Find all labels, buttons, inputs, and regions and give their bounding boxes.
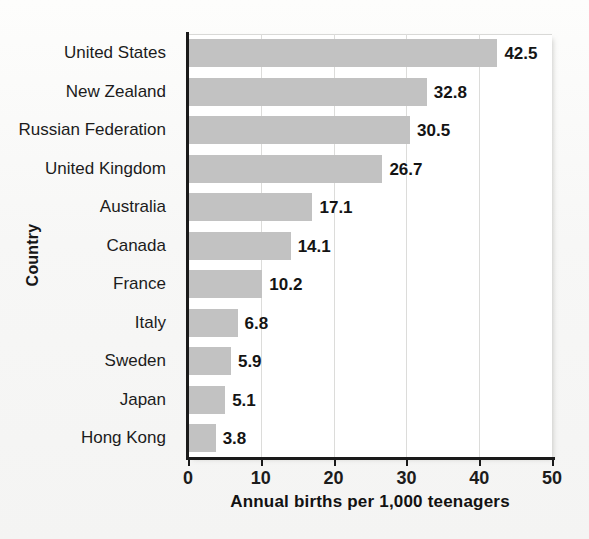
- x-tick-30: [406, 458, 408, 466]
- x-tick-label-40: 40: [456, 468, 502, 489]
- bar-value-label: 32.8: [434, 79, 467, 106]
- x-tick-label-20: 20: [311, 468, 357, 489]
- bar-row: 42.5: [188, 34, 552, 72]
- bar-value-label: 30.5: [417, 117, 450, 144]
- bar-row: 3.8: [188, 419, 552, 457]
- bar-value-label: 17.1: [319, 194, 352, 221]
- x-tick-label-10: 10: [238, 468, 284, 489]
- bar-row: 5.1: [188, 381, 552, 419]
- bar: [188, 155, 382, 183]
- bar: [188, 424, 216, 452]
- x-tick-50: [552, 458, 554, 466]
- bar-value-label: 14.1: [298, 233, 331, 260]
- bar-row: 32.8: [188, 73, 552, 111]
- x-tick-label-0: 0: [165, 468, 211, 489]
- category-label: Sweden: [0, 342, 176, 380]
- bar-chart-figure: 42.532.830.526.717.114.110.26.85.95.13.8…: [0, 0, 589, 539]
- bar: [188, 39, 497, 67]
- x-tick-20: [334, 458, 336, 466]
- category-label: Hong Kong: [0, 419, 176, 457]
- category-label: Russian Federation: [0, 111, 176, 149]
- bar: [188, 270, 262, 298]
- bar-value-label: 6.8: [245, 310, 269, 337]
- bar: [188, 78, 427, 106]
- bar-row: 6.8: [188, 304, 552, 342]
- category-label: New Zealand: [0, 73, 176, 111]
- bar: [188, 309, 238, 337]
- bar-row: 26.7: [188, 150, 552, 188]
- bar-row: 14.1: [188, 227, 552, 265]
- bar: [188, 193, 312, 221]
- bar-value-label: 42.5: [504, 40, 537, 67]
- y-axis-line: [186, 32, 189, 460]
- y-axis-title: Country: [24, 190, 42, 320]
- bar-row: 30.5: [188, 111, 552, 149]
- bar-value-label: 5.1: [232, 387, 256, 414]
- bar-value-label: 3.8: [223, 425, 247, 452]
- bar-row: 17.1: [188, 188, 552, 226]
- bar: [188, 116, 410, 144]
- bar-value-label: 26.7: [389, 156, 422, 183]
- x-tick-0: [188, 458, 190, 466]
- x-tick-label-50: 50: [529, 468, 575, 489]
- category-label: United States: [0, 34, 176, 72]
- bar-row: 5.9: [188, 342, 552, 380]
- bar: [188, 386, 225, 414]
- bar-value-label: 10.2: [269, 271, 302, 298]
- x-tick-40: [479, 458, 481, 466]
- x-axis-title: Annual births per 1,000 teenagers: [170, 492, 570, 512]
- bar-value-label: 5.9: [238, 348, 262, 375]
- bar: [188, 232, 291, 260]
- category-label: Japan: [0, 381, 176, 419]
- bar-row: 10.2: [188, 265, 552, 303]
- category-label: United Kingdom: [0, 150, 176, 188]
- x-tick-10: [261, 458, 263, 466]
- bar: [188, 347, 231, 375]
- x-axis-line: [186, 457, 555, 460]
- x-tick-label-30: 30: [383, 468, 429, 489]
